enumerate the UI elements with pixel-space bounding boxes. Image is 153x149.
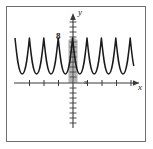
y-axis-label: y: [78, 8, 82, 17]
x-axis-label: x: [138, 83, 142, 92]
x-tick-label-pi: π: [84, 79, 88, 86]
y-tick-label-8: 8: [56, 32, 61, 41]
figure-container: y x 8 π: [0, 0, 153, 149]
curve-cosine: [15, 38, 134, 74]
graph-plot: [0, 0, 153, 149]
x-axis: [14, 80, 139, 86]
